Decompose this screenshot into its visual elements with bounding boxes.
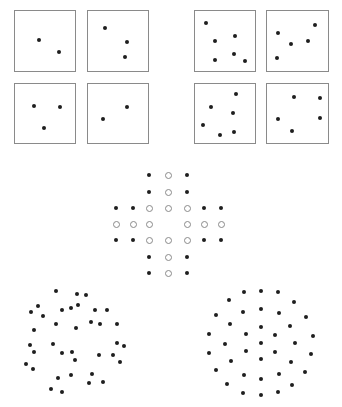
dot: [306, 39, 310, 43]
dot: [213, 58, 217, 62]
dot: [37, 38, 41, 42]
dot: [87, 381, 91, 385]
dot: [273, 333, 277, 337]
dot: [244, 349, 248, 353]
open-circle: [113, 221, 120, 228]
dot: [28, 343, 32, 347]
open-circle: [146, 221, 153, 228]
open-circle: [146, 205, 153, 212]
dot: [225, 382, 229, 386]
dot: [259, 357, 263, 361]
box-top-right-3: [194, 83, 256, 144]
dot: [101, 380, 105, 384]
dot: [207, 332, 211, 336]
dot: [288, 324, 292, 328]
dot: [289, 42, 293, 46]
filled-dot: [185, 271, 189, 275]
open-circle: [184, 205, 191, 212]
dot: [204, 21, 208, 25]
open-circle: [184, 237, 191, 244]
dot: [76, 303, 80, 307]
dot: [93, 308, 97, 312]
open-circle: [184, 221, 191, 228]
dot: [32, 104, 36, 108]
dot: [277, 311, 281, 315]
dot: [209, 105, 213, 109]
filled-dot: [202, 238, 206, 242]
dot: [70, 350, 74, 354]
dot: [234, 92, 238, 96]
dot: [276, 117, 280, 121]
dot: [259, 377, 263, 381]
filled-dot: [147, 271, 151, 275]
filled-dot: [131, 206, 135, 210]
dot: [259, 393, 263, 397]
dot: [244, 332, 248, 336]
dot: [289, 360, 293, 364]
dot: [84, 293, 88, 297]
dot: [51, 342, 55, 346]
dot: [228, 322, 232, 326]
dot: [60, 390, 64, 394]
open-circle: [165, 237, 172, 244]
dot: [242, 373, 246, 377]
dot: [103, 26, 107, 30]
box-top-left-1: [14, 10, 76, 72]
dot: [32, 328, 36, 332]
open-circle: [146, 237, 153, 244]
filled-dot: [147, 190, 151, 194]
box-top-left-4: [87, 83, 149, 144]
dot: [276, 390, 280, 394]
open-circle: [218, 221, 225, 228]
dot: [54, 289, 58, 293]
open-circle: [165, 205, 172, 212]
dot: [31, 367, 35, 371]
dot: [73, 358, 77, 362]
dot: [293, 341, 297, 345]
dot: [276, 31, 280, 35]
dot-pattern-figure: [0, 0, 342, 407]
dot: [318, 116, 322, 120]
dot: [57, 50, 61, 54]
dot: [259, 289, 263, 293]
box-top-left-2: [87, 10, 149, 72]
filled-dot: [131, 238, 135, 242]
dot: [275, 56, 279, 60]
box-top-right-2: [266, 10, 329, 72]
filled-dot: [219, 238, 223, 242]
filled-dot: [147, 255, 151, 259]
dot: [125, 40, 129, 44]
dot: [97, 353, 101, 357]
dot: [233, 34, 237, 38]
dot: [290, 129, 294, 133]
dot: [111, 353, 115, 357]
filled-dot: [219, 206, 223, 210]
dot: [213, 39, 217, 43]
open-circle: [130, 221, 137, 228]
dot: [232, 52, 236, 56]
dot: [115, 341, 119, 345]
dot: [241, 391, 245, 395]
dot: [60, 351, 64, 355]
dot: [41, 314, 45, 318]
dot: [277, 372, 281, 376]
dot: [223, 342, 227, 346]
open-circle: [165, 172, 172, 179]
dot: [232, 130, 236, 134]
dot: [58, 105, 62, 109]
dot: [118, 360, 122, 364]
dot: [49, 387, 53, 391]
dot: [42, 126, 46, 130]
open-circle: [165, 189, 172, 196]
open-circle: [165, 254, 172, 261]
dot: [259, 341, 263, 345]
dot: [69, 373, 73, 377]
dot: [75, 292, 79, 296]
dot: [101, 117, 105, 121]
dot: [214, 368, 218, 372]
dot: [214, 313, 218, 317]
dot: [207, 351, 211, 355]
filled-dot: [185, 173, 189, 177]
dot: [74, 326, 78, 330]
open-circle: [165, 270, 172, 277]
